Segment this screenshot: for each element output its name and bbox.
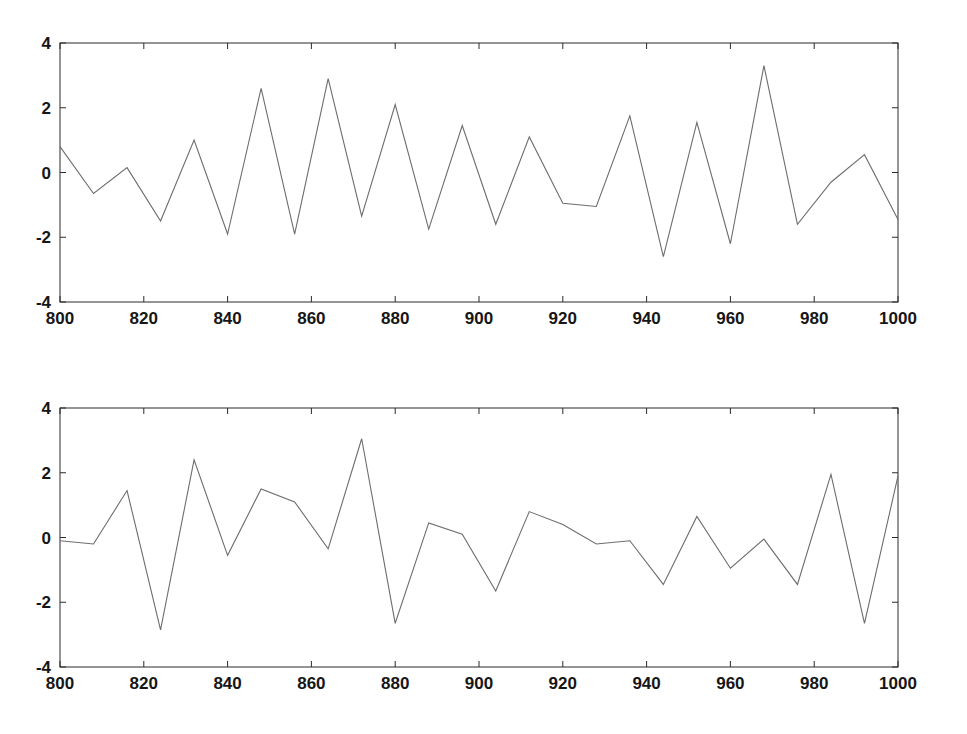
x-tick-label: 860: [297, 309, 325, 328]
y-tick-label: 4: [42, 399, 52, 418]
y-tick-label: 0: [42, 164, 51, 183]
x-tick-label: 920: [549, 309, 577, 328]
chart-panel-bottom: 8008208408608809009209409609801000-4-202…: [0, 360, 967, 734]
plot-background: [60, 408, 898, 667]
x-tick-label: 880: [381, 674, 409, 693]
x-tick-label: 980: [800, 309, 828, 328]
y-tick-label: -2: [36, 228, 51, 247]
y-tick-label: -2: [36, 593, 51, 612]
x-tick-label: 920: [549, 674, 577, 693]
figure-container: 8008208408608809009209409609801000-4-202…: [0, 0, 967, 734]
x-tick-label: 960: [716, 674, 744, 693]
y-tick-label: 0: [42, 529, 51, 548]
x-tick-label: 860: [297, 674, 325, 693]
chart-panel-top: 8008208408608809009209409609801000-4-202…: [0, 0, 967, 360]
x-tick-label: 1000: [879, 674, 917, 693]
y-tick-label: -4: [36, 293, 52, 312]
x-tick-label: 940: [632, 309, 660, 328]
y-tick-label: 2: [42, 464, 51, 483]
y-tick-label: 2: [42, 99, 51, 118]
plot-background: [60, 43, 898, 302]
x-tick-label: 1000: [879, 309, 917, 328]
x-tick-label: 900: [465, 674, 493, 693]
x-tick-label: 940: [632, 674, 660, 693]
x-tick-label: 880: [381, 309, 409, 328]
y-tick-label: -4: [36, 658, 52, 677]
x-tick-label: 980: [800, 674, 828, 693]
x-tick-label: 840: [213, 309, 241, 328]
x-tick-label: 960: [716, 309, 744, 328]
y-tick-label: 4: [42, 34, 52, 53]
x-tick-label: 820: [130, 674, 158, 693]
x-tick-label: 820: [130, 309, 158, 328]
x-tick-label: 840: [213, 674, 241, 693]
x-tick-label: 900: [465, 309, 493, 328]
line-chart-bottom: 8008208408608809009209409609801000-4-202…: [0, 360, 967, 734]
line-chart-top: 8008208408608809009209409609801000-4-202…: [0, 0, 967, 360]
